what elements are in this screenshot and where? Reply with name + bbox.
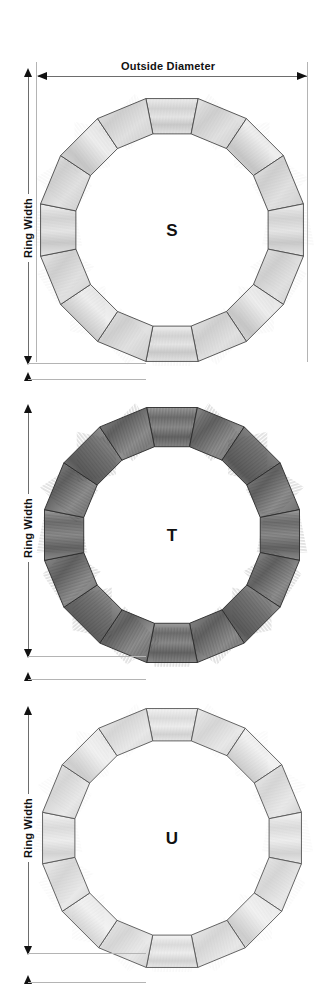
ring-s-width-label: Ring Width (22, 194, 34, 262)
ring-segment-grain (147, 408, 198, 447)
ring-s-outer-ext-line (28, 379, 146, 380)
diagram-canvas: Outside Diameter (0, 0, 334, 1005)
ring-t-width-label: Ring Width (22, 494, 34, 562)
ring-u-width-arrow-up (24, 706, 32, 715)
ring-s-width-arrow-up (24, 68, 32, 77)
ring-u-letter: U (166, 829, 178, 849)
ring-segment-grain (30, 210, 82, 245)
outside-diameter-arrow-right (297, 72, 307, 80)
ring-t-width-arrow-up (24, 404, 32, 413)
ring-segment-grain (146, 99, 198, 134)
outside-diameter-line (38, 76, 307, 77)
ring-segment-grain (262, 210, 314, 245)
ring-t-letter: T (167, 526, 177, 546)
ring-t-outer-ext-line (28, 679, 146, 680)
ring-u-outer-ext-line (28, 982, 146, 983)
ring-u-width-ext-bottom (28, 953, 146, 954)
outside-diameter-arrow-left (37, 72, 47, 80)
ring-segment-grain (146, 709, 198, 741)
ring-t-width-ext-bottom (28, 656, 146, 657)
ring-u-width-label: Ring Width (22, 794, 34, 862)
ring-s-letter: S (166, 221, 177, 241)
outside-diameter-label: Outside Diameter (117, 60, 219, 72)
ring-segment-grain (146, 331, 198, 366)
ring-segment-grain (147, 628, 198, 667)
ring-s-width-ext-bottom (28, 363, 146, 364)
